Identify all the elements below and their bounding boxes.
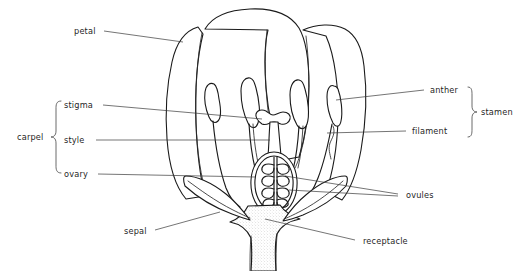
label-filament: filament bbox=[412, 126, 448, 136]
label-stigma: stigma bbox=[64, 100, 93, 110]
label-receptacle: receptacle bbox=[363, 236, 408, 246]
label-carpel: carpel bbox=[17, 132, 43, 142]
label-sepal: sepal bbox=[124, 226, 147, 236]
label-ovary: ovary bbox=[64, 169, 88, 179]
label-ovules: ovules bbox=[406, 190, 434, 200]
label-petal: petal bbox=[74, 26, 96, 36]
label-style: style bbox=[64, 135, 85, 145]
flower-diagram-canvas: petal stigma style ovary carpel sepal an… bbox=[0, 0, 530, 271]
label-stamen: stamen bbox=[481, 107, 513, 117]
label-anther: anther bbox=[430, 85, 459, 95]
flower-diagram: petal stigma style ovary carpel sepal an… bbox=[0, 0, 530, 271]
